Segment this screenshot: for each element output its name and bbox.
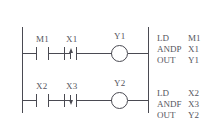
instruction-opcode: OUT (157, 110, 188, 121)
contact-x2-label: X2 (36, 81, 47, 91)
contact-bar-left (36, 47, 37, 60)
instruction-operand: Y1 (188, 55, 199, 66)
instruction-row: LDM1 (157, 33, 201, 44)
contact-bar-left (64, 94, 65, 107)
instruction-list-block-1: LDM1 ANDPX1 OUTY1 (157, 33, 201, 66)
contact-bar-left (36, 94, 37, 107)
instruction-row: OUTY1 (157, 55, 201, 66)
rung-2-wire-segment-1 (22, 100, 36, 101)
instruction-opcode: OUT (157, 55, 188, 66)
rung-1-wire-segment-4 (128, 53, 149, 54)
instruction-list-block-2: LDX2 ANDFX3 OUTY2 (157, 88, 199, 121)
coil-y2-label: Y2 (114, 78, 125, 88)
instruction-row: ANDFX3 (157, 99, 199, 110)
coil-y1[interactable] (111, 45, 128, 62)
rung-1-wire-segment-1 (22, 53, 36, 54)
rung-2-wire-segment-3 (76, 100, 112, 101)
instruction-operand: X3 (188, 99, 199, 110)
rising-edge-arrow-icon (69, 48, 73, 53)
ladder-diagram-canvas: M1 X1 Y1 X2 X3 Y2 LDM1 (0, 0, 221, 138)
instruction-opcode: ANDF (157, 99, 188, 110)
coil-y1-label: Y1 (114, 31, 125, 41)
instruction-row: ANDPX1 (157, 44, 201, 55)
rising-edge-arrow-stem (70, 52, 71, 59)
rung-2-wire-segment-4 (128, 100, 149, 101)
contact-x1-label: X1 (66, 34, 77, 44)
instruction-opcode: LD (157, 33, 188, 44)
instruction-opcode: ANDP (157, 44, 188, 55)
coil-y2[interactable] (111, 92, 128, 109)
instruction-row: OUTY2 (157, 110, 199, 121)
instruction-operand: X1 (188, 44, 199, 55)
contact-m1-label: M1 (36, 34, 49, 44)
contact-x3-label: X3 (66, 81, 77, 91)
contact-bar-left (64, 47, 65, 60)
instruction-row: LDX2 (157, 88, 199, 99)
instruction-operand: M1 (188, 33, 201, 44)
falling-edge-arrow-icon (69, 100, 73, 105)
rung-1-wire-segment-3 (76, 53, 112, 54)
instruction-operand: X2 (188, 88, 199, 99)
instruction-opcode: LD (157, 88, 188, 99)
instruction-operand: Y2 (188, 110, 199, 121)
